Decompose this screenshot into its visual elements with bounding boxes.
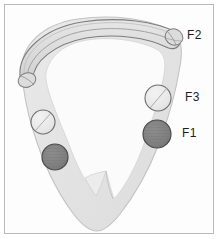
figure-root: F2 F3 F1 bbox=[0, 0, 219, 239]
marker-dark-left[interactable] bbox=[42, 144, 68, 170]
marker-dark-right-texture bbox=[144, 121, 171, 148]
marker-dark-right[interactable] bbox=[143, 120, 171, 148]
marker-light-right[interactable] bbox=[145, 85, 171, 111]
label-f1: F1 bbox=[182, 127, 197, 139]
label-f3: F3 bbox=[185, 91, 200, 103]
marker-dark-left-texture bbox=[43, 145, 68, 170]
marker-light-left[interactable] bbox=[31, 110, 55, 134]
label-f2: F2 bbox=[187, 29, 202, 41]
